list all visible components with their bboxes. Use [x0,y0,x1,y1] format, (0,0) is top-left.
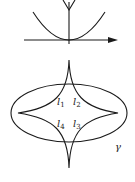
region-label-l3: l3 [73,118,81,131]
horizontal-axis-arrowhead [108,37,118,43]
curve-gamma-ellipse [11,84,127,142]
region-label-l2: l2 [73,96,81,109]
four-cusp-curve-refined [18,60,118,168]
region-label-l4: l4 [57,118,65,131]
bottom-panel: l1 l2 l3 l4 γ [11,60,127,168]
curve-label-gamma: γ [115,141,121,152]
top-panel [24,0,118,44]
diagram: l1 l2 l3 l4 γ [0,0,135,182]
region-label-l1: l1 [57,96,65,109]
